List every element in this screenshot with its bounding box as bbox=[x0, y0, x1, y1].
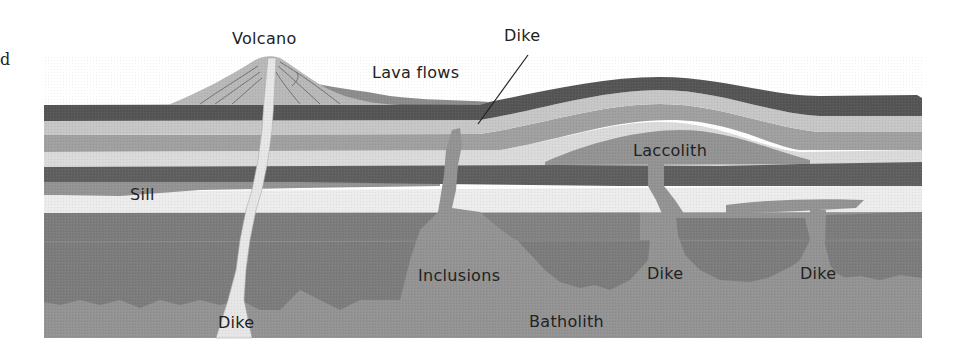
label-volcano: Volcano bbox=[232, 29, 297, 48]
label-laccolith: Laccolith bbox=[633, 141, 707, 160]
deep-rock-right bbox=[825, 212, 922, 280]
label-inclusions: Inclusions bbox=[418, 266, 500, 285]
label-dike-right: Dike bbox=[800, 264, 837, 283]
label-dike-bottom-left: Dike bbox=[218, 313, 255, 332]
label-batholith: Batholith bbox=[529, 312, 604, 331]
label-sill: Sill bbox=[130, 185, 155, 204]
label-dike-top: Dike bbox=[504, 26, 541, 45]
label-lava-flows: Lava flows bbox=[372, 63, 459, 82]
margin-text: d bbox=[0, 50, 10, 69]
label-dike-middle: Dike bbox=[647, 264, 684, 283]
igneous-intrusion-diagram bbox=[0, 0, 960, 363]
